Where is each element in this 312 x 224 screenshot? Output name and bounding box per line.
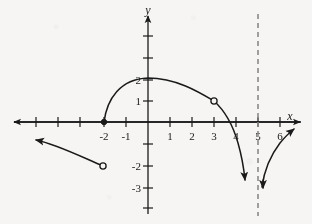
y-axis-label: y	[144, 3, 151, 17]
open-point-arc-right-end	[211, 98, 217, 104]
curve-arc-branch	[104, 78, 214, 122]
y-tick-label--3: -3	[132, 182, 142, 194]
curve-descending-branch	[214, 101, 245, 180]
curve-right-branch-up-arrow	[289, 129, 294, 133]
closed-point-left-branch-end	[101, 119, 106, 124]
coordinate-plane-svg: -2 -1 1 2 3 4 5 6 2 1 -2 -3 x y	[0, 0, 312, 224]
y-tick-label-1: 1	[136, 95, 142, 107]
graph-figure: -2 -1 1 2 3 4 5 6 2 1 -2 -3 x y	[0, 0, 312, 224]
curve-left-branch	[36, 140, 103, 166]
y-tick-label--2: -2	[132, 160, 141, 172]
x-tick-label--2: -2	[99, 130, 108, 142]
x-tick-label-3: 3	[211, 130, 217, 142]
x-tick-label-2: 2	[189, 130, 195, 142]
x-tick-label--1: -1	[121, 130, 130, 142]
x-axis-label: x	[286, 109, 293, 123]
open-point-lower-left	[100, 163, 106, 169]
x-tick-label-1: 1	[167, 130, 173, 142]
